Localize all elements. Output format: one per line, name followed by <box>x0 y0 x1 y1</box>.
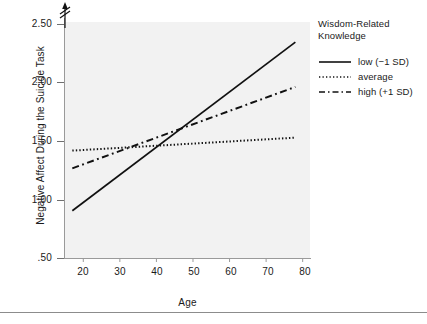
x-tick-label-0: 20 <box>68 266 98 277</box>
x-axis-line <box>64 258 311 259</box>
legend-item-high: high (+1 SD) <box>318 84 426 99</box>
plot-area <box>65 22 310 258</box>
legend: Wisdom-Related Knowledge low (−1 SD) av <box>318 18 426 99</box>
x-tick-label-3: 50 <box>179 266 209 277</box>
legend-label-high: high (+1 SD) <box>358 86 413 97</box>
legend-title-line-2: Knowledge <box>318 30 426 42</box>
legend-label-average: average <box>358 71 393 82</box>
x-tick-label-2: 40 <box>142 266 172 277</box>
figure: .50 1.00 1.50 2.00 2.50 20 30 40 50 60 7… <box>0 0 427 324</box>
y-tick-mark <box>57 258 64 259</box>
legend-label-low: low (−1 SD) <box>358 56 409 67</box>
legend-line-solid-icon <box>318 56 352 68</box>
y-tick-mark <box>57 141 64 142</box>
x-axis-title: Age <box>65 297 310 308</box>
y-tick-mark <box>57 82 64 83</box>
y-tick-mark <box>57 200 64 201</box>
footer-rule <box>0 312 427 313</box>
y-axis-line <box>64 18 65 258</box>
x-tick-label-6: 80 <box>290 266 320 277</box>
y-tick-mark <box>57 24 64 25</box>
legend-line-dotted-icon <box>318 71 352 83</box>
x-tick-label-5: 70 <box>253 266 283 277</box>
legend-title-line-1: Wisdom-Related <box>318 18 426 30</box>
legend-item-low: low (−1 SD) <box>318 54 426 69</box>
x-tick-label-1: 30 <box>105 266 135 277</box>
legend-items: low (−1 SD) average high (+1 SD) <box>318 54 426 99</box>
legend-title: Wisdom-Related Knowledge <box>318 18 426 42</box>
y-tick-label-0: .50 <box>6 252 52 263</box>
legend-line-dashed-icon <box>318 86 352 98</box>
y-axis-title: Negative Affect During the Suicide Task <box>35 21 46 251</box>
x-tick-label-4: 60 <box>216 266 246 277</box>
legend-item-average: average <box>318 69 426 84</box>
